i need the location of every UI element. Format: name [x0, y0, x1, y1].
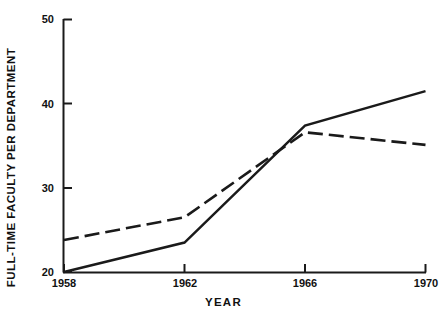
- series-line-dashed: [64, 132, 426, 240]
- plot-area: [0, 0, 447, 319]
- x-tick-label-1962: 1962: [173, 277, 197, 289]
- x-axis-title: YEAR: [0, 296, 447, 308]
- x-tick-label-1958: 1958: [52, 277, 76, 289]
- y-tick-label-30: 30: [28, 182, 54, 194]
- chart-figure: FULL-TIME FACULTY PER DEPARTMENT 50 40 3…: [0, 0, 447, 319]
- x-tick-label-1970: 1970: [414, 277, 438, 289]
- y-tick-label-20: 20: [28, 266, 54, 278]
- y-tick-label-50: 50: [28, 13, 54, 25]
- x-tick-label-1966: 1966: [293, 277, 317, 289]
- series-line-solid: [64, 91, 426, 272]
- y-tick-label-40: 40: [28, 98, 54, 110]
